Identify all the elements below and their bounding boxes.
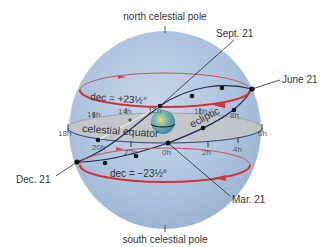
hour-label-0: 0h: [162, 148, 171, 157]
june21-leader: [252, 80, 280, 89]
dec21-label: Dec. 21: [16, 174, 51, 185]
dec-lower-label: dec = −23½°: [110, 168, 167, 179]
hour-label-18: 18h: [58, 129, 71, 138]
ecliptic-point: [103, 161, 108, 166]
ecliptic-point: [96, 138, 101, 143]
hour-label-2: 2h: [202, 148, 211, 157]
sept21-label: Sept. 21: [216, 28, 254, 39]
ecliptic-point: [201, 126, 206, 131]
north-pole-label: north celestial pole: [123, 11, 207, 22]
mar21-label: Mar. 21: [232, 194, 266, 205]
ecliptic-point: [128, 118, 132, 122]
hour-label-8: 8h: [230, 111, 239, 120]
hour-label-16: 16h: [87, 110, 100, 119]
hour-label-22: 22h: [124, 148, 137, 157]
south-pole-label: south celestial pole: [122, 234, 207, 245]
dec21-leader: [56, 162, 77, 176]
hour-label-20: 20h: [92, 143, 105, 152]
hour-label-6: 6h: [258, 129, 267, 138]
hour-label-12: 12h: [148, 106, 161, 115]
june21-label: June 21: [282, 74, 318, 85]
celestial-sphere-diagram: 18h 16h 14h 12h 10h 8h 6h 4h 2h 0h 22h 2…: [0, 0, 331, 247]
ecliptic-point: [220, 86, 225, 91]
hour-label-4: 4h: [233, 145, 242, 154]
hour-label-14: 14h: [118, 107, 131, 116]
ecliptic-point: [190, 94, 195, 99]
